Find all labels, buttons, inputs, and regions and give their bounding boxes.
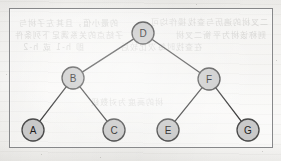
tree-edge-f-e [174,87,202,122]
tree-edge-b-c [79,86,108,122]
tree-node-f[interactable]: F [198,68,221,91]
tree-node-d[interactable]: D [132,22,155,45]
node-label-g: G [244,125,252,136]
node-label-e: E [165,125,172,136]
tree-node-a[interactable]: A [22,119,45,142]
tree-edge-d-f [151,39,201,74]
node-label-d: D [139,28,146,39]
tree-node-c[interactable]: C [103,119,126,142]
node-label-c: C [110,125,117,136]
node-label-f: F [206,74,212,85]
tree-node-b[interactable]: B [62,67,85,90]
tree-edge-f-g [215,87,242,122]
node-label-b: B [70,73,77,84]
tree-edge-b-a [39,86,67,122]
tree-node-g[interactable]: G [237,119,260,142]
figure-container: 的最小值，且其左子树与二叉树的遍历与查找操作均可子结点的关系满足下列条件则称该树… [0,0,281,161]
node-label-a: A [30,125,37,136]
binary-tree-diagram: DBFACEG [0,0,281,161]
tree-node-group: DBFACEG [22,22,260,142]
tree-edge-d-b [81,38,134,72]
tree-node-e[interactable]: E [157,119,180,142]
